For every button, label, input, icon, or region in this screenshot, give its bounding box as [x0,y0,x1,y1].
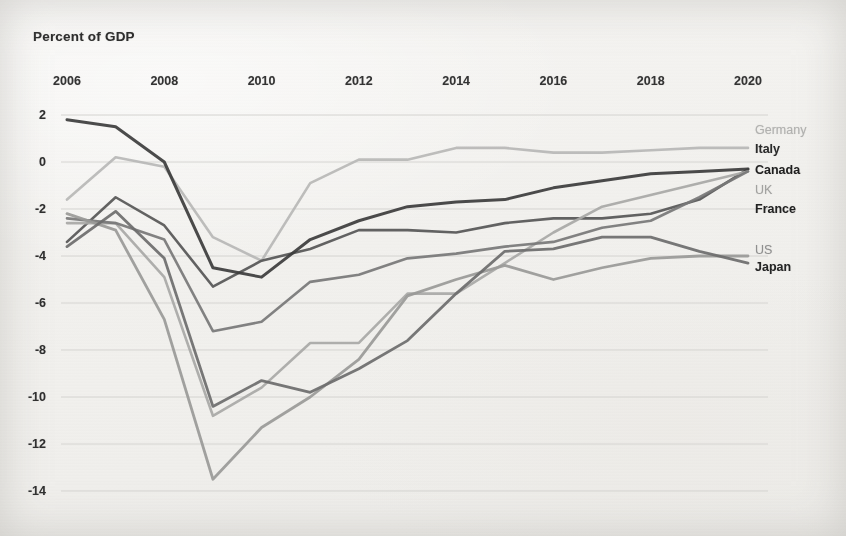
series-label-us: US [755,243,772,257]
series-label-france: France [755,202,796,216]
series-line-us [67,214,748,480]
series-label-uk: UK [755,183,772,197]
line-chart-plot [0,0,846,536]
series-line-canada [67,120,748,277]
series-label-italy: Italy [755,142,780,156]
chart-figure: Percent of GDP 2006200820102012201420162… [0,0,846,536]
series-line-germany [67,148,748,261]
series-label-japan: Japan [755,260,791,274]
series-label-germany: Germany [755,123,806,137]
series-line-japan [67,211,748,406]
series-lines [67,120,748,480]
series-label-canada: Canada [755,163,800,177]
